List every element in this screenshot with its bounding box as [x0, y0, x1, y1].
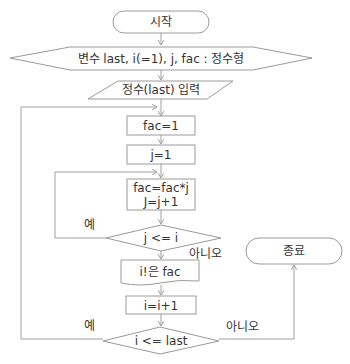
- input-label: 정수(last) 입력: [122, 83, 201, 97]
- cond-j-label: j <= i: [143, 231, 178, 245]
- fac-mult-label-2: J=j+1: [143, 195, 179, 209]
- cond-i-decision: i <= last: [103, 327, 219, 354]
- declare-preparation: 변수 last, i(=1), j, fac : 정수형: [10, 47, 312, 70]
- cond-i-no-label: 아니오: [226, 320, 259, 334]
- cond-j-no-label: 아니오: [189, 247, 222, 261]
- fac-init-label: fac=1: [143, 119, 179, 133]
- cond-j-yes-label: 예: [84, 218, 95, 232]
- j-init-label: j=1: [149, 148, 171, 162]
- i-inc-label: i=i+1: [144, 299, 178, 313]
- input-parallelogram: 정수(last) 입력: [88, 81, 233, 99]
- cond-i-label: i <= last: [135, 334, 188, 348]
- flowchart-canvas: 시작 변수 last, i(=1), j, fac : 정수형 정수(last)…: [0, 0, 350, 364]
- output-document: i!은 fac: [121, 260, 199, 285]
- end-label: 종료: [283, 244, 305, 258]
- start-label: 시작: [150, 15, 172, 29]
- cond-i-yes-label: 예: [84, 319, 95, 333]
- end-terminal: 종료: [246, 238, 342, 264]
- fac-mult-label-1: fac=fac*j: [133, 181, 189, 195]
- fac-mult-process: fac=fac*j J=j+1: [127, 179, 195, 210]
- j-init-process: j=1: [127, 145, 195, 164]
- fac-init-process: fac=1: [127, 116, 195, 135]
- i-inc-process: i=i+1: [126, 296, 196, 314]
- declare-label: 변수 last, i(=1), j, fac : 정수형: [78, 52, 245, 66]
- start-terminal: 시작: [113, 11, 209, 33]
- output-label: i!은 fac: [139, 265, 180, 279]
